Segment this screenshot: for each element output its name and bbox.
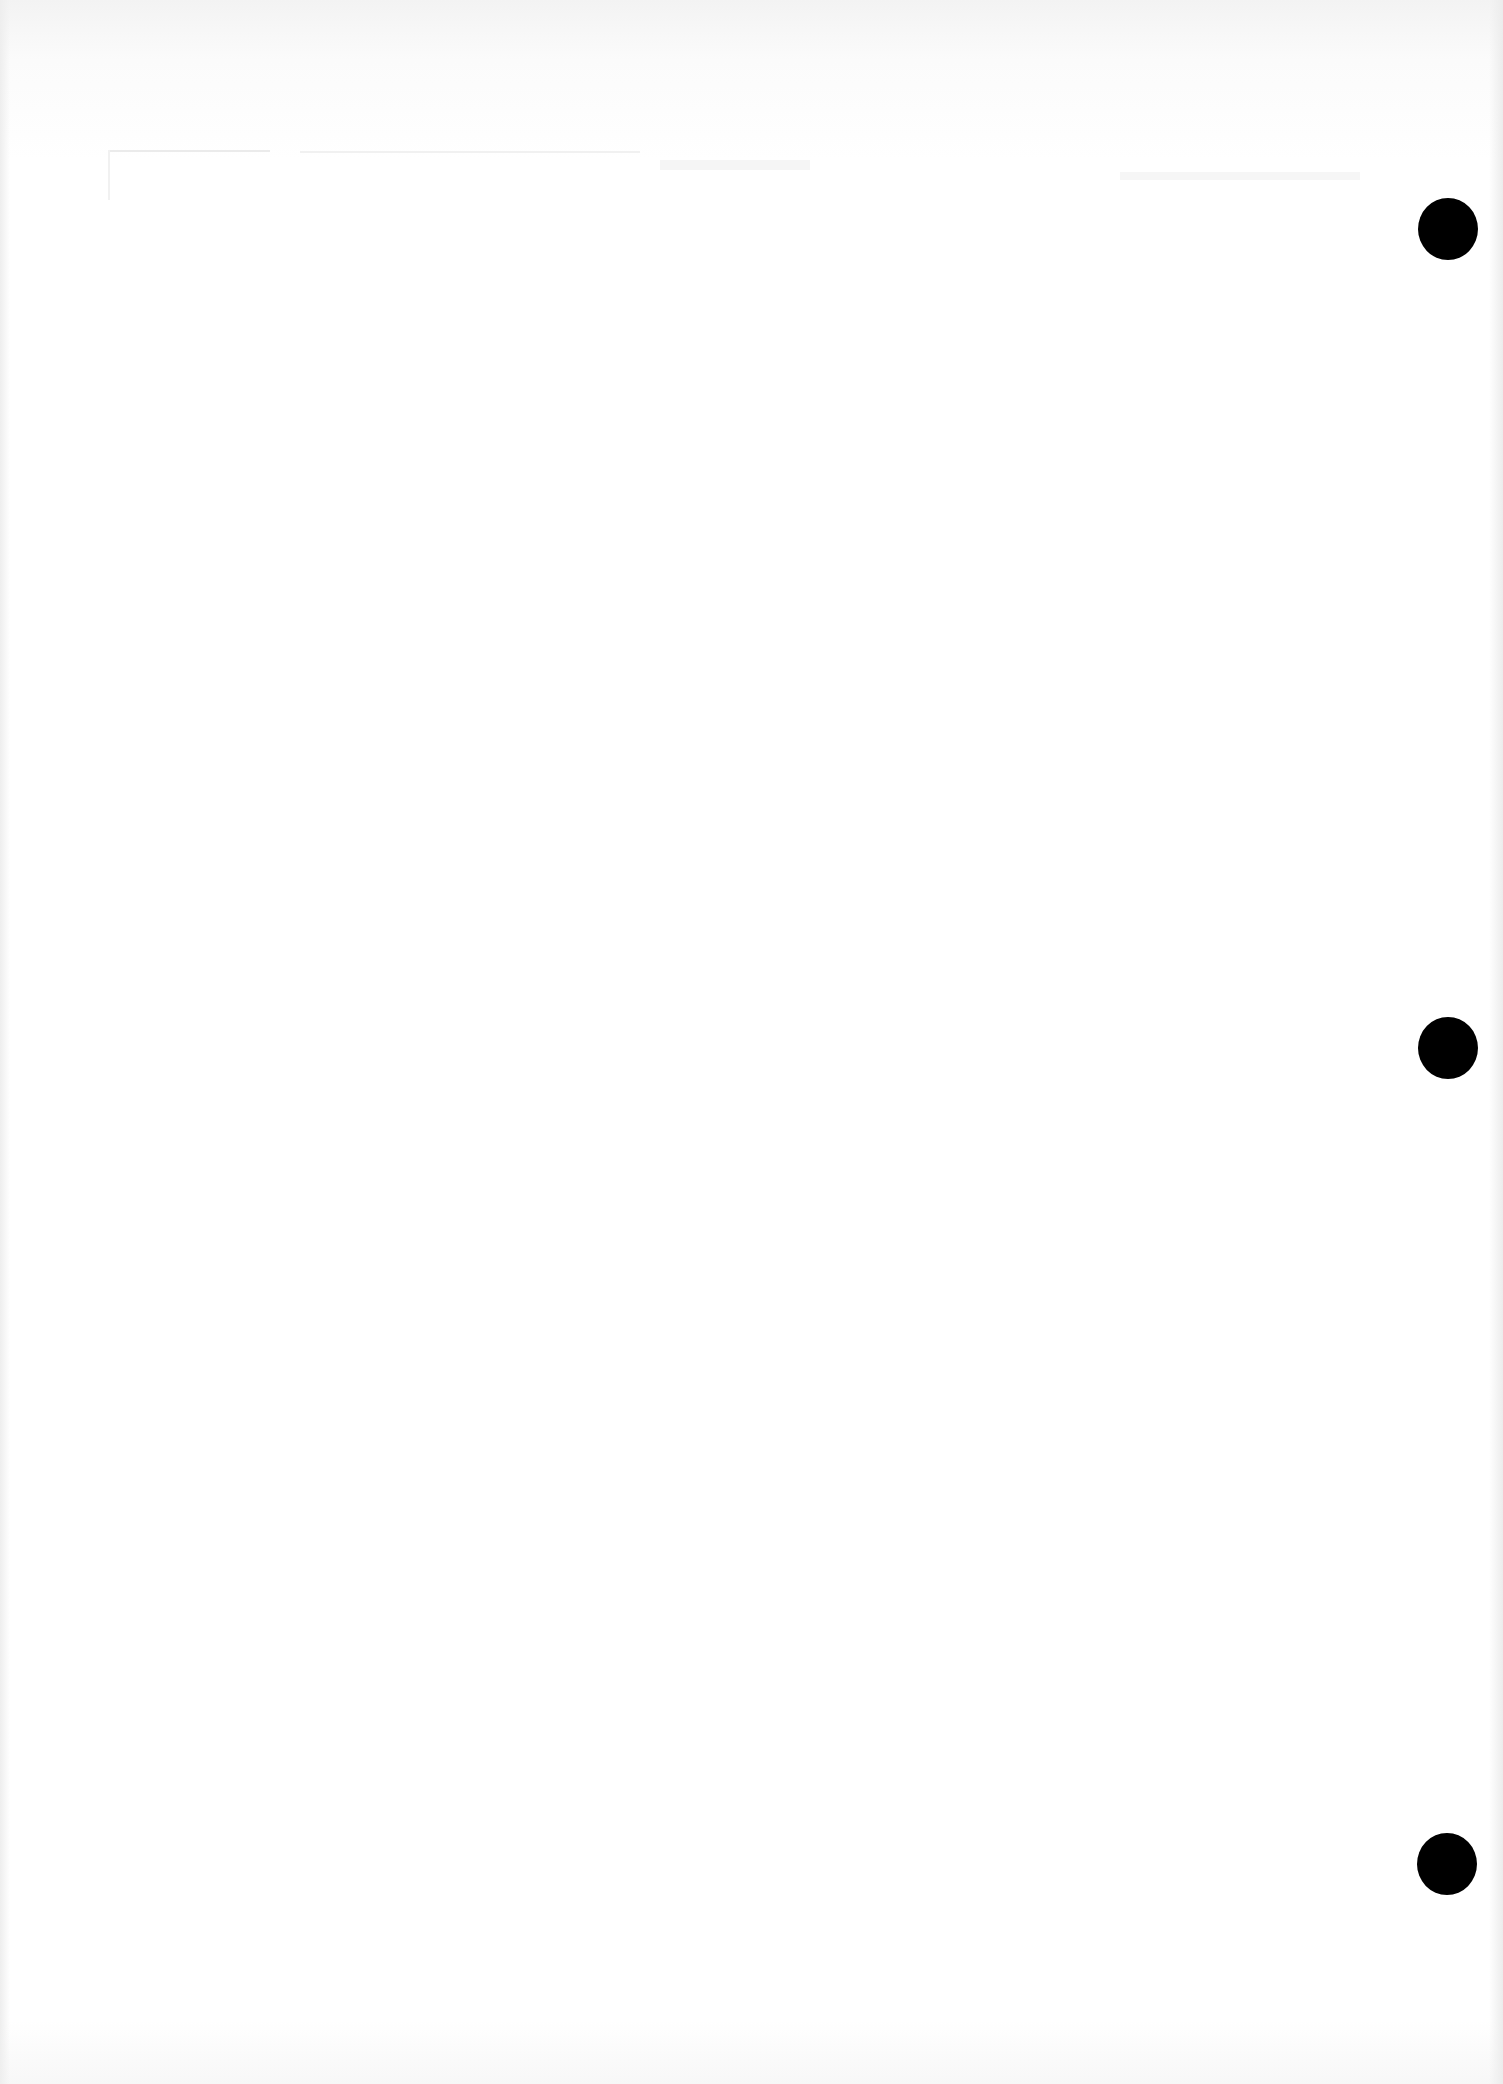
punch-hole-top xyxy=(1418,198,1478,260)
show-through-mark xyxy=(660,160,810,170)
show-through-mark xyxy=(108,150,110,200)
show-through-mark xyxy=(300,151,640,153)
scan-edge-shadow-right xyxy=(1489,0,1503,2084)
scanned-blank-page xyxy=(0,0,1503,2084)
punch-hole-middle xyxy=(1418,1017,1478,1079)
scan-edge-shadow-left xyxy=(0,0,10,2084)
punch-hole-bottom xyxy=(1417,1833,1477,1895)
show-through-mark xyxy=(110,150,270,152)
show-through-mark xyxy=(1120,172,1360,180)
